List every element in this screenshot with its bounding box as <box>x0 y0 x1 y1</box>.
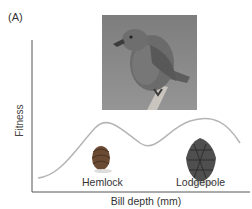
lodgepole-label: Lodgepole <box>176 176 225 188</box>
hemlock-cone-icon <box>92 146 112 173</box>
hemlock-label: Hemlock <box>82 176 123 188</box>
x-axis-label: Bill depth (mm) <box>0 195 252 207</box>
